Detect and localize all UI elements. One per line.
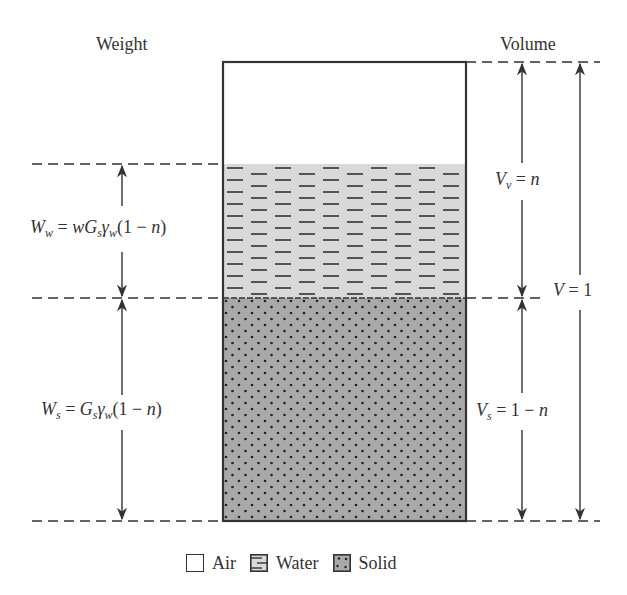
- water-phase: [223, 164, 466, 298]
- legend-item-air: Air: [186, 553, 236, 574]
- air-phase: [223, 62, 466, 164]
- legend-label-solid: Solid: [359, 553, 397, 574]
- air-swatch-icon: [186, 554, 204, 572]
- legend-item-solid: Solid: [333, 553, 397, 574]
- legend-label-water: Water: [276, 553, 319, 574]
- volume-header: Volume: [500, 34, 556, 55]
- water-weight-label: Ww = wGsγw(1 − n): [30, 217, 166, 241]
- legend-label-air: Air: [212, 553, 236, 574]
- solid-weight-label: Ws = Gsγw(1 − n): [41, 399, 162, 423]
- weight-header: Weight: [96, 34, 148, 55]
- legend-item-water: Water: [250, 553, 319, 574]
- water-swatch-icon: [250, 554, 268, 572]
- phase-diagram: [0, 0, 627, 595]
- solid-phase: [223, 298, 466, 521]
- void-volume-label: Vv = n: [495, 169, 539, 193]
- solid-volume-label: Vs = 1 − n: [476, 400, 548, 424]
- solid-swatch-icon: [333, 554, 351, 572]
- legend: Air Water Solid: [186, 552, 397, 574]
- total-volume-label: V = 1: [553, 280, 592, 301]
